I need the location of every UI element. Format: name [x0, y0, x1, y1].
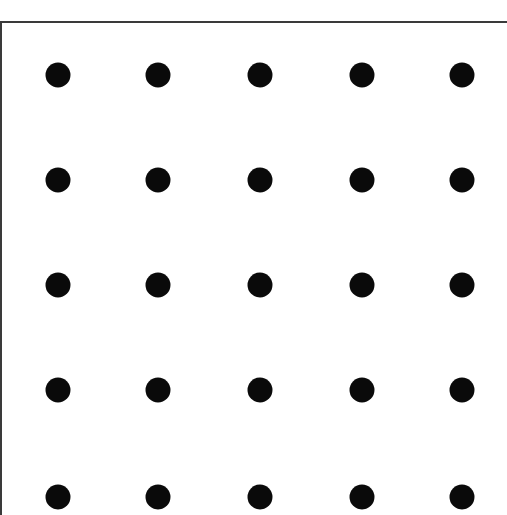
grid-dot	[46, 63, 71, 88]
frame-top-border	[0, 21, 507, 23]
grid-dot	[450, 63, 475, 88]
grid-dot	[146, 378, 171, 403]
grid-dot	[450, 273, 475, 298]
grid-dot	[146, 273, 171, 298]
grid-dot	[46, 273, 71, 298]
grid-dot	[450, 168, 475, 193]
grid-dot	[350, 273, 375, 298]
grid-dot	[248, 485, 273, 510]
grid-dot	[46, 168, 71, 193]
grid-dot	[350, 378, 375, 403]
grid-dot	[248, 63, 273, 88]
frame-left-border	[0, 21, 2, 515]
grid-dot	[450, 485, 475, 510]
grid-dot	[146, 63, 171, 88]
grid-dot	[248, 273, 273, 298]
grid-dot	[248, 378, 273, 403]
grid-dot	[350, 485, 375, 510]
grid-dot	[248, 168, 273, 193]
grid-dot	[350, 168, 375, 193]
grid-dot	[146, 168, 171, 193]
grid-dot	[46, 485, 71, 510]
grid-dot	[146, 485, 171, 510]
grid-dot	[46, 378, 71, 403]
grid-dot	[450, 378, 475, 403]
grid-dot	[350, 63, 375, 88]
